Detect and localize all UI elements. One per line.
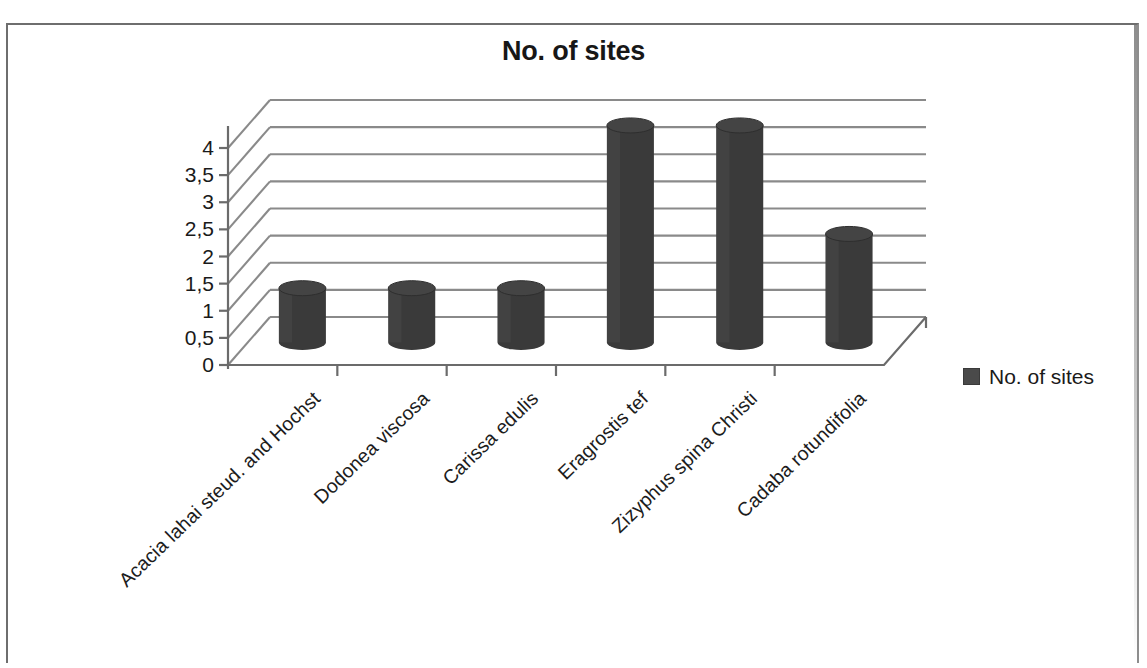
- grid-riser: [228, 154, 270, 202]
- grid-riser: [228, 100, 270, 148]
- bar-top-ellipse: [279, 281, 326, 296]
- y-tick-label: 2: [160, 246, 214, 267]
- grid-riser: [228, 181, 270, 229]
- bar-shading: [716, 125, 729, 342]
- bar-shading: [826, 234, 839, 343]
- y-tick-label: 3,5: [160, 164, 214, 185]
- grid-riser: [228, 127, 270, 175]
- bar-shading: [498, 288, 511, 342]
- grid-riser: [228, 317, 270, 365]
- grid-riser: [228, 290, 270, 338]
- bar-cylinder: [826, 226, 873, 350]
- bar-top-ellipse: [388, 281, 435, 296]
- bar-shading: [279, 288, 292, 342]
- y-tick-label: 1: [160, 300, 214, 321]
- scanned-page: No. of sites 43,532,521,510,50 Acacia la…: [0, 0, 1147, 668]
- bar-shading: [388, 288, 401, 342]
- legend-label-no-of-sites: No. of sites: [989, 366, 1094, 387]
- legend-swatch-no-of-sites: [963, 368, 980, 385]
- bar-shading: [607, 125, 620, 342]
- chart-legend: No. of sites: [963, 366, 1094, 387]
- bar-cylinder: [716, 118, 763, 350]
- grid-riser: [228, 209, 270, 257]
- y-tick-label: 3: [160, 191, 214, 212]
- floor-edge: [228, 317, 926, 365]
- bar-top-ellipse: [498, 281, 545, 296]
- bar-cylinder: [607, 118, 654, 350]
- y-tick-label: 4: [160, 137, 214, 158]
- y-tick-label: 2,5: [160, 218, 214, 239]
- y-axis-tick-labels: 43,532,521,510,50: [160, 0, 214, 668]
- bar-cylinder: [279, 281, 326, 350]
- bar-top-ellipse: [607, 118, 654, 133]
- y-tick-label: 1,5: [160, 273, 214, 294]
- bar-chart: No. of sites 43,532,521,510,50 Acacia la…: [0, 0, 1147, 668]
- bar-cylinder: [388, 281, 435, 350]
- bar-cylinder: [498, 281, 545, 350]
- bar-top-ellipse: [826, 226, 873, 241]
- y-tick-label: 0: [160, 354, 214, 375]
- y-tick-label: 0,5: [160, 327, 214, 348]
- grid-riser: [228, 236, 270, 284]
- grid-riser: [228, 263, 270, 311]
- bar-top-ellipse: [716, 118, 763, 133]
